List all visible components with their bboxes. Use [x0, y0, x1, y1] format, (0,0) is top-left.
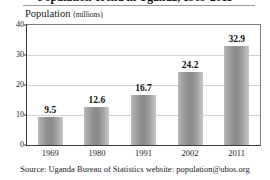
y-tick-label: 40	[16, 21, 24, 29]
y-tick-label: 30	[16, 51, 24, 59]
bar-value-label: 9.5	[44, 105, 56, 115]
x-tick-label: 2011	[228, 148, 245, 158]
bar-slot: 32.9	[224, 25, 249, 145]
bar-value-label: 32.9	[228, 34, 245, 44]
x-tick-label: 2002	[182, 148, 199, 158]
x-axis: 19691980199120022011	[26, 147, 261, 161]
y-tick-label: 10	[16, 111, 24, 119]
title-divider	[23, 5, 255, 6]
bar-slot: 12.6	[84, 25, 109, 145]
bar[interactable]	[178, 72, 203, 145]
bar-value-label: 16.7	[135, 83, 152, 93]
source-note: Source: Uganda Bureau of Statistics webs…	[0, 164, 270, 174]
bar-slot: 24.2	[178, 25, 203, 145]
bar[interactable]	[131, 95, 156, 145]
x-tick-label: 1991	[135, 148, 152, 158]
chart-title: Population Trend in Uganda, 1969-2011	[0, 0, 270, 4]
plot-area: 010203040 9.512.616.724.232.9	[26, 24, 261, 146]
bar-slot: 9.5	[38, 25, 63, 145]
bar[interactable]	[38, 117, 63, 146]
bar[interactable]	[84, 107, 109, 145]
axis-subtitle: Population (millions)	[25, 8, 103, 21]
axis-subtitle-main: Population	[25, 8, 71, 19]
x-tick-label: 1980	[88, 148, 105, 158]
chart-figure: Population Trend in Uganda, 1969-2011 Po…	[0, 0, 270, 180]
bar-series: 9.512.616.724.232.9	[27, 25, 260, 145]
x-tick-label: 1969	[42, 148, 59, 158]
bar-slot: 16.7	[131, 25, 156, 145]
bar-value-label: 24.2	[182, 60, 199, 70]
y-tick-label: 20	[16, 81, 24, 89]
bar[interactable]	[224, 46, 249, 145]
y-tick-label: 0	[20, 141, 24, 149]
axis-subtitle-unit: (millions)	[73, 10, 103, 19]
bar-value-label: 12.6	[89, 95, 106, 105]
